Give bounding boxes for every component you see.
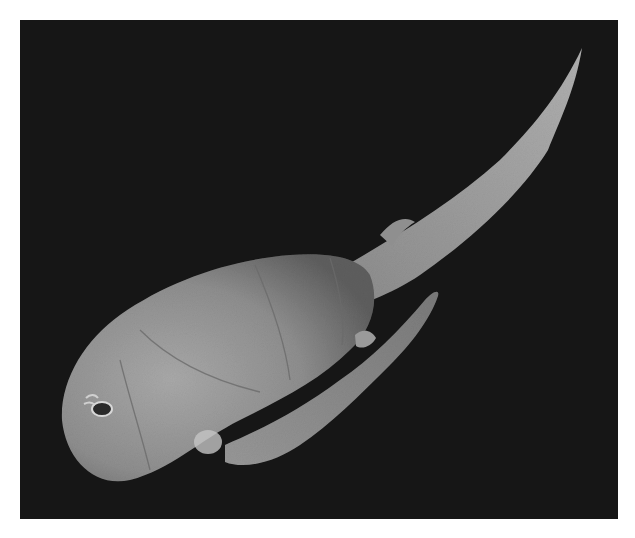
fossil-tail xyxy=(330,48,582,310)
fossil-small-appendage xyxy=(355,331,376,348)
fossil-highlight xyxy=(194,430,222,454)
photo-frame xyxy=(20,20,618,519)
fossil-fish-image xyxy=(20,20,618,519)
